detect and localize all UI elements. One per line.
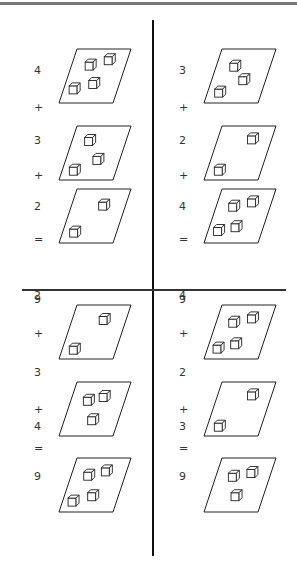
cube-icon: [69, 83, 80, 94]
addend-number: 3: [179, 65, 186, 77]
cube-icon: [213, 342, 224, 353]
plus-sign: +: [179, 170, 188, 182]
cube-icon: [229, 316, 240, 327]
cube-icon: [85, 59, 96, 70]
horizontal-divider: [22, 289, 286, 291]
cube-icon: [99, 199, 110, 210]
vertical-divider: [152, 20, 154, 556]
counting-plate: [203, 304, 275, 360]
cube-icon: [88, 414, 99, 425]
counting-plate: [203, 457, 275, 513]
cube-icon: [99, 391, 110, 402]
plus-sign: +: [179, 102, 188, 114]
cube-icon: [247, 133, 258, 144]
counting-plate: [58, 125, 130, 181]
counting-plate: [203, 48, 275, 104]
cube-icon: [93, 153, 104, 164]
cube-icon: [69, 164, 80, 175]
cube-icon: [83, 394, 94, 405]
cube-icon: [214, 164, 225, 175]
cube-icon: [247, 312, 258, 323]
cube-icon: [231, 338, 242, 349]
cube-icon: [85, 135, 96, 146]
counting-plate: [203, 188, 275, 244]
plus-sign: +: [179, 404, 188, 416]
cube-icon: [101, 465, 112, 476]
cube-icon: [88, 490, 99, 501]
cube-icon: [214, 225, 225, 236]
cube-icon: [214, 420, 225, 431]
equals-sign: =: [179, 443, 188, 455]
addend-number: 2: [34, 290, 41, 302]
cube-icon: [230, 60, 241, 71]
cube-icon: [69, 343, 80, 354]
addend-number: 2: [179, 135, 186, 147]
counting-plate: [58, 457, 130, 513]
addend-number: 4: [34, 65, 41, 77]
equals-sign: =: [34, 443, 43, 455]
cube-icon: [247, 196, 258, 207]
equals-sign: =: [34, 234, 43, 246]
counting-plate: [58, 188, 130, 244]
plate-outline: [59, 49, 131, 103]
cube-icon: [70, 226, 81, 237]
cube-icon: [104, 54, 115, 65]
equals-sign: =: [179, 234, 188, 246]
addend-number: 3: [179, 421, 186, 433]
plate-outline: [204, 458, 276, 512]
counting-plate: [203, 381, 275, 437]
cube-icon: [228, 470, 239, 481]
addend-number: 3: [34, 135, 41, 147]
addend-number: 2: [34, 201, 41, 213]
counting-plate: [58, 381, 130, 437]
plus-sign: +: [34, 328, 43, 340]
plus-sign: +: [34, 102, 43, 114]
counting-plate: [58, 48, 130, 104]
top-border: [0, 2, 297, 5]
plate-outline: [59, 382, 131, 436]
cube-icon: [99, 314, 110, 325]
cube-icon: [247, 389, 258, 400]
plus-sign: +: [34, 170, 43, 182]
addend-number: 2: [179, 367, 186, 379]
cube-icon: [231, 221, 242, 232]
addend-number: 4: [34, 421, 41, 433]
plus-sign: +: [34, 404, 43, 416]
counting-plate: [203, 125, 275, 181]
cube-icon: [229, 200, 240, 211]
cube-icon: [215, 86, 226, 97]
cube-icon: [247, 467, 258, 478]
addend-number: 3: [34, 367, 41, 379]
cube-icon: [239, 74, 250, 85]
cube-icon: [68, 495, 79, 506]
sum-total: 9: [34, 471, 41, 483]
addend-number: 4: [179, 201, 186, 213]
cube-icon: [84, 469, 95, 480]
plus-sign: +: [179, 328, 188, 340]
counting-plate: [58, 304, 130, 360]
cube-icon: [231, 490, 242, 501]
addend-number: 4: [179, 290, 186, 302]
cube-icon: [89, 77, 100, 88]
sum-total: 9: [179, 471, 186, 483]
